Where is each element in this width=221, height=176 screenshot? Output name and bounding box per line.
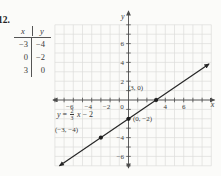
- data-point: [126, 117, 130, 121]
- equation-constant: − 2: [83, 110, 94, 119]
- equation-equals: =: [63, 110, 68, 119]
- equation-lhs: y: [57, 110, 61, 119]
- coordinate-graph: −6−4−2046642−4−6xy: [0, 0, 221, 176]
- fraction-denominator: 3: [70, 114, 75, 121]
- y-tick-label: −6: [117, 153, 125, 161]
- data-point: [99, 136, 103, 140]
- x-axis-label: x: [210, 100, 215, 109]
- x-tick-label: 0: [120, 103, 124, 111]
- data-point: [154, 98, 158, 102]
- y-tick-label: 2: [121, 78, 125, 86]
- x-tick-label: 4: [164, 103, 168, 111]
- line-equation: y = 23 x − 2: [57, 108, 93, 121]
- y-axis-label: y: [120, 12, 125, 21]
- x-tick-label: 6: [182, 103, 186, 111]
- equation-variable: x: [77, 110, 81, 119]
- y-tick-label: 6: [121, 40, 125, 48]
- point-label-3-0: (3, 0): [128, 84, 143, 92]
- y-tick-label: −4: [117, 134, 125, 142]
- point-label--3--4: (−3, −4): [55, 126, 78, 134]
- y-tick-label: 4: [121, 59, 125, 67]
- point-label-0--2: (0, −2): [133, 115, 152, 123]
- textbook-figure: 12. x y −3 −4 0 −2 3 0 −6−4−2046: [0, 0, 221, 176]
- x-tick-label: −2: [103, 103, 111, 111]
- equation-fraction: 23: [70, 108, 75, 121]
